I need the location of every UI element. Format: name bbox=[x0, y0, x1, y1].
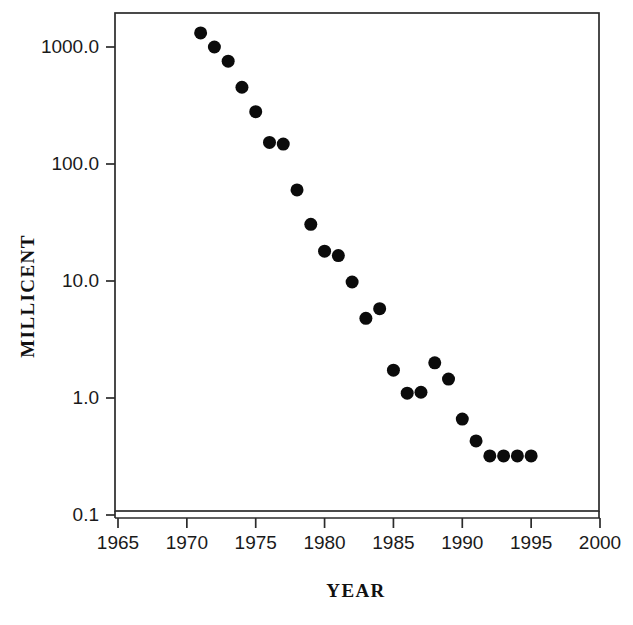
data-point bbox=[511, 449, 524, 462]
data-point bbox=[483, 449, 496, 462]
scatter-plot: 1000.0100.010.01.00.1 196519701975198019… bbox=[0, 0, 633, 625]
y-tick-label: 10.0 bbox=[62, 270, 99, 291]
y-tick-label: 100.0 bbox=[51, 153, 99, 174]
x-tick-label: 1980 bbox=[303, 532, 345, 553]
data-point bbox=[222, 55, 235, 68]
data-point bbox=[456, 413, 469, 426]
y-tick-label: 1.0 bbox=[73, 387, 99, 408]
x-tick-label: 2000 bbox=[579, 532, 621, 553]
data-point bbox=[235, 81, 248, 94]
data-point bbox=[373, 302, 386, 315]
data-point bbox=[249, 105, 262, 118]
data-point bbox=[414, 386, 427, 399]
data-point bbox=[428, 356, 441, 369]
data-point bbox=[263, 136, 276, 149]
y-tick-label: 0.1 bbox=[73, 504, 99, 525]
data-point bbox=[401, 387, 414, 400]
data-point bbox=[359, 312, 372, 325]
data-point bbox=[277, 138, 290, 151]
data-point bbox=[525, 449, 538, 462]
data-point bbox=[442, 373, 455, 386]
data-point bbox=[194, 26, 207, 39]
chart-page: 1000.0100.010.01.00.1 196519701975198019… bbox=[0, 0, 633, 625]
x-axis-title: YEAR bbox=[326, 580, 385, 601]
data-point bbox=[318, 245, 331, 258]
data-point bbox=[346, 276, 359, 289]
data-point bbox=[332, 249, 345, 262]
y-axis-title: MILLICENT bbox=[17, 234, 38, 357]
data-point bbox=[497, 449, 510, 462]
y-tick-label: 1000.0 bbox=[41, 36, 99, 57]
x-tick-label: 1995 bbox=[510, 532, 552, 553]
x-tick-label: 1990 bbox=[441, 532, 483, 553]
data-point bbox=[208, 41, 221, 54]
x-tick-label: 1975 bbox=[235, 532, 277, 553]
data-point bbox=[387, 364, 400, 377]
x-tick-label: 1965 bbox=[97, 532, 139, 553]
data-point bbox=[470, 434, 483, 447]
x-tick-label: 1970 bbox=[166, 532, 208, 553]
x-tick-label: 1985 bbox=[372, 532, 414, 553]
data-point bbox=[304, 218, 317, 231]
data-point bbox=[291, 183, 304, 196]
